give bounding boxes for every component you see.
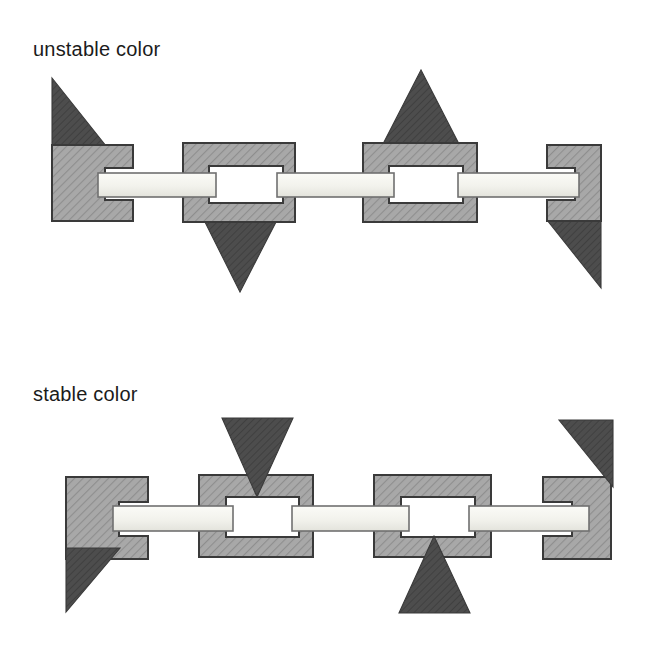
chain-diagram-unstable bbox=[0, 0, 646, 340]
connector-group-unstable bbox=[98, 173, 579, 197]
connector-group-stable bbox=[113, 506, 589, 531]
connector-bar-1 bbox=[113, 506, 233, 531]
connector-bar-3 bbox=[469, 506, 589, 531]
center-left-down-triangle bbox=[205, 222, 276, 292]
left-up-right-triangle bbox=[52, 78, 106, 146]
figure-root: unstable color bbox=[0, 0, 646, 660]
connector-bar-3 bbox=[458, 173, 579, 197]
center-right-up-triangle bbox=[383, 70, 459, 144]
right-down-right-triangle bbox=[547, 220, 601, 288]
connector-bar-1 bbox=[98, 173, 216, 197]
left-down-left-triangle bbox=[66, 548, 120, 612]
connector-bar-2 bbox=[277, 173, 394, 197]
connector-bar-2 bbox=[292, 506, 409, 531]
chain-diagram-stable bbox=[0, 340, 646, 660]
panel-unstable-color: unstable color bbox=[0, 0, 646, 340]
panel-stable-color: stable color bbox=[0, 340, 646, 660]
